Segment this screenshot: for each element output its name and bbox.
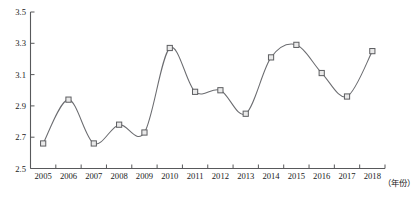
data-point-marker	[294, 42, 299, 47]
x-axis-tick-label: 2006	[60, 171, 78, 181]
x-axis-tick-label: 2013	[237, 171, 254, 181]
data-point-marker	[142, 130, 147, 135]
x-axis-tick-label: 2012	[212, 171, 229, 181]
x-axis-tick-label: 2018	[364, 171, 381, 181]
line-chart: 2.52.72.93.13.33.5 200520062007200820092…	[0, 0, 420, 202]
data-point-marker	[117, 122, 122, 127]
y-axis-tick-label: 3.3	[15, 38, 26, 48]
x-axis-tick-label: 2011	[187, 171, 204, 181]
y-axis-tick-label: 2.7	[15, 132, 26, 142]
x-axis-tick-label: 2015	[288, 171, 305, 181]
data-line-series-1	[43, 44, 372, 144]
y-axis-tick-label: 3.1	[15, 70, 26, 80]
chart-svg: 2.52.72.93.13.33.5 200520062007200820092…	[0, 0, 420, 202]
x-axis-tick-label: 2014	[262, 171, 280, 181]
data-point-marker	[243, 111, 248, 116]
data-point-marker	[344, 94, 349, 99]
x-axis-tick-label: 2009	[136, 171, 153, 181]
x-axis-tick-label: 2008	[111, 171, 128, 181]
data-point-marker	[192, 89, 197, 94]
x-axis-tick-label: 2005	[35, 171, 52, 181]
y-axis-tick-label: 3.5	[15, 7, 26, 17]
x-axis-tick-label: 2007	[85, 171, 103, 181]
data-point-marker	[66, 97, 71, 102]
y-axis: 2.52.72.93.13.33.5	[15, 7, 34, 174]
x-axis-caption: （年份）	[383, 178, 415, 188]
data-point-marker	[319, 70, 324, 75]
data-markers	[41, 42, 375, 146]
data-point-marker	[370, 49, 375, 54]
x-axis-tick-label: 2016	[313, 171, 331, 181]
y-axis-tick-label: 2.9	[15, 101, 26, 111]
data-point-marker	[91, 141, 96, 146]
x-axis-tick-label: 2017	[338, 171, 356, 181]
data-point-marker	[218, 88, 223, 93]
y-axis-tick-label: 2.5	[15, 164, 26, 174]
data-point-marker	[167, 45, 172, 50]
data-point-marker	[268, 55, 273, 60]
x-axis-tick-label: 2010	[161, 171, 178, 181]
data-point-marker	[41, 141, 46, 146]
x-axis: 2005200620072008200920102011201220132014…	[31, 165, 386, 182]
